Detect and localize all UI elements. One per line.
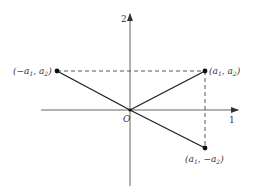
point-neg-a1-a2: [55, 69, 60, 74]
label-a1-a2: (a1, a2): [209, 66, 241, 77]
diagram-canvas: 2 1 O (−a1, a2) (a1, a2) (a1, −a2): [0, 0, 253, 192]
vector-to-bottom-point: [130, 110, 205, 148]
label-neg-a1-a2: (−a1, a2): [13, 66, 52, 77]
vector-to-right-point: [130, 71, 205, 110]
origin-label: O: [123, 114, 131, 124]
origin-point: [128, 108, 131, 111]
label-a1-neg-a2: (a1, −a2): [185, 154, 224, 165]
x-axis-label: 1: [229, 115, 235, 125]
vector-to-left-point: [57, 71, 130, 110]
y-axis-label: 2: [121, 14, 127, 24]
point-a1-neg-a2: [203, 146, 208, 151]
point-a1-a2: [203, 69, 208, 74]
